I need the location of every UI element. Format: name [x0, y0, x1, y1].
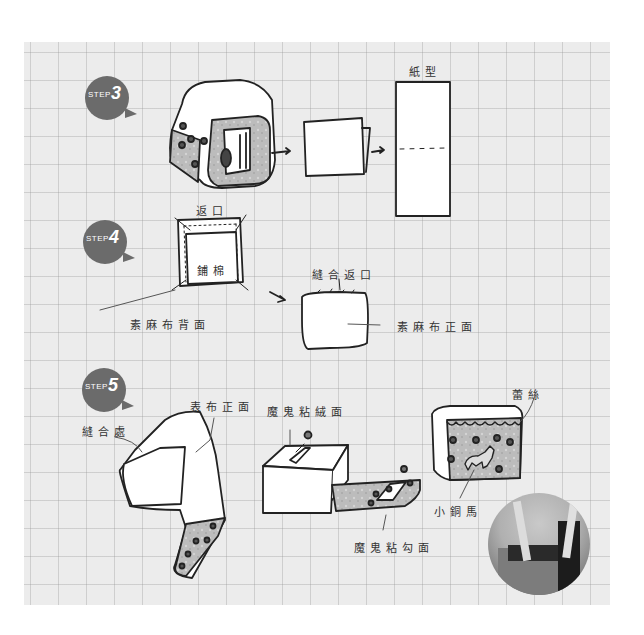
step3-rolled-fabric	[170, 80, 275, 188]
linen-front-label: 素麻布正面	[397, 318, 477, 334]
step4-badge: STEP 4	[83, 220, 127, 264]
linen-back-label: 素麻布背面	[130, 316, 210, 332]
step5-box	[263, 430, 420, 530]
sew-opening-label: 縫合返口	[312, 266, 376, 282]
finished-product-photo	[488, 493, 590, 595]
step4-quilting-square	[172, 215, 248, 290]
velcro-hook-label: 魔鬼粘勾面	[354, 539, 434, 555]
seam-label: 縫合處	[82, 423, 130, 439]
batting-label: 鋪棉	[197, 262, 229, 278]
arrow-icon	[372, 147, 384, 153]
step5-badge: STEP 5	[82, 368, 126, 412]
pattern-label: 紙型	[409, 63, 441, 79]
step5-strap	[120, 412, 225, 578]
opening-label: 返口	[196, 202, 228, 218]
arrow-icon	[270, 292, 285, 302]
step5-finished-bag	[432, 398, 534, 498]
step3-badge: STEP 3	[85, 76, 129, 120]
lace-label: 蕾絲	[512, 386, 544, 402]
velcro-loop-label: 魔鬼粘絨面	[267, 403, 347, 419]
outer-front-label: 表布正面	[190, 398, 254, 414]
pony-label: 小銅馬	[434, 503, 482, 519]
